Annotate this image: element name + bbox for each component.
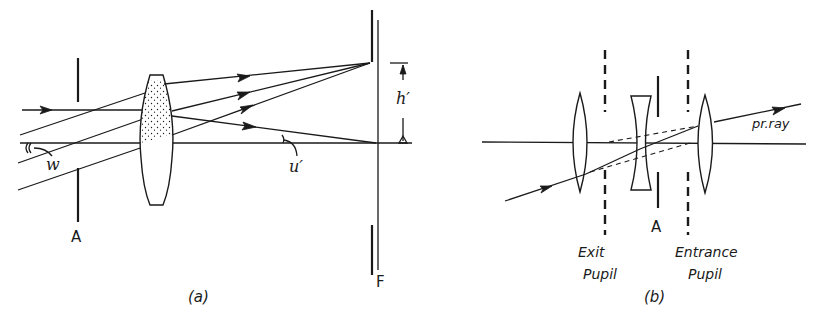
label-focal-plane: F [376, 273, 385, 291]
label-entrance-pupil-1: Entrance [675, 244, 738, 260]
converging-lens-b-second [698, 95, 713, 193]
arrow-up-icon [400, 65, 406, 74]
ray-out-1 [164, 63, 370, 84]
arrow-icon [240, 105, 253, 114]
caption-b: (b) [644, 288, 665, 306]
label-entrance-pupil-2: Pupil [688, 266, 722, 282]
label-aperture-stop-a: A [71, 228, 82, 246]
label-angle-u-prime: u′ [289, 157, 303, 176]
label-principal-ray: pr.ray [751, 116, 790, 131]
ray-axial-out [172, 116, 376, 143]
label-aperture-stop-b: A [651, 218, 662, 236]
arrow-icon [237, 92, 250, 100]
virtual-ray-upper [609, 126, 698, 142]
label-exit-pupil-2: Pupil [583, 266, 617, 282]
panel-b: pr.ray A Exit Pupil Entrance Pupil (b) [482, 50, 806, 306]
arrow-icon [772, 107, 785, 115]
label-image-height: h′ [396, 89, 410, 108]
angle-w-arc [26, 143, 28, 153]
ray-oblique-3 [18, 146, 146, 190]
label-angle-w: w [46, 155, 60, 174]
label-exit-pupil-1: Exit [578, 244, 605, 260]
principal-ray-mid-2 [640, 126, 698, 149]
arrow-icon [540, 186, 552, 193]
angle-u-arc [282, 135, 284, 143]
ray-out-3 [172, 63, 370, 135]
ray-oblique-1 [20, 92, 148, 135]
optics-figure: w u′ h′ A F (a) [0, 0, 813, 323]
ray-oblique-2 [18, 118, 146, 163]
caption-a: (a) [188, 288, 209, 306]
panel-a: w u′ h′ A F (a) [18, 10, 412, 306]
angle-w-arc-2 [29, 143, 31, 153]
ray-out-2 [172, 63, 370, 111]
